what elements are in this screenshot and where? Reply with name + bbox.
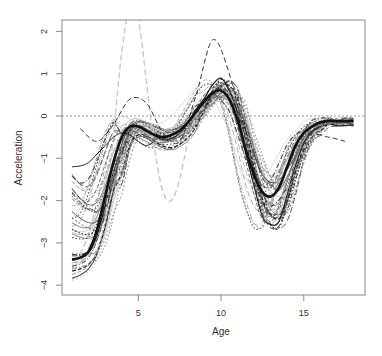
x-tick-label: 15 (299, 308, 309, 318)
y-axis-title: Acceleration (13, 130, 24, 185)
y-tick-label: 2 (39, 29, 49, 34)
individual-curve (72, 90, 353, 256)
y-tick-label: 0 (39, 113, 49, 118)
individual-curve (72, 92, 353, 239)
y-axis: −4−3−2−1012 (39, 29, 62, 290)
x-tick-label: 10 (216, 308, 226, 318)
individual-curve (72, 92, 353, 268)
acceleration-chart: −4−3−2−1012 51015 Age Acceleration (0, 0, 382, 356)
y-tick-label: −2 (39, 195, 49, 205)
y-tick-label: 1 (39, 71, 49, 76)
x-axis-title: Age (212, 326, 230, 337)
y-tick-label: −1 (39, 153, 49, 163)
x-tick-label: 5 (136, 308, 141, 318)
x-axis: 51015 (136, 295, 309, 318)
y-tick-label: −4 (39, 280, 49, 290)
y-tick-label: −3 (39, 238, 49, 248)
individual-curve (72, 85, 353, 263)
curves-group (72, 4, 353, 281)
